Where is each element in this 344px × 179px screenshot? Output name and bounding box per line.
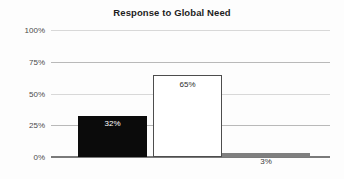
plot-area: 32% 65% 3% (51, 30, 330, 157)
chart-title: Response to Global Need (0, 7, 344, 18)
bar-3-value-label: 3% (222, 157, 310, 166)
y-axis-tick-label-0: 0% (0, 153, 45, 162)
y-axis-tick-label-25: 25% (0, 121, 45, 130)
y-axis-tick-label-50: 50% (0, 89, 45, 98)
bar-chart: Response to Global Need 100% 75% 50% 25%… (0, 0, 344, 179)
gridline-75 (51, 62, 330, 63)
bar-2[interactable]: 65% (153, 75, 222, 158)
bar-1[interactable]: 32% (78, 116, 147, 157)
bar-1-value-label: 32% (78, 119, 147, 128)
y-axis-tick-label-75: 75% (0, 57, 45, 66)
bar-3[interactable]: 3% (222, 153, 310, 157)
y-axis-tick-label-100: 100% (0, 26, 45, 35)
bar-2-value-label: 65% (154, 80, 221, 89)
gridline-100 (51, 30, 330, 31)
